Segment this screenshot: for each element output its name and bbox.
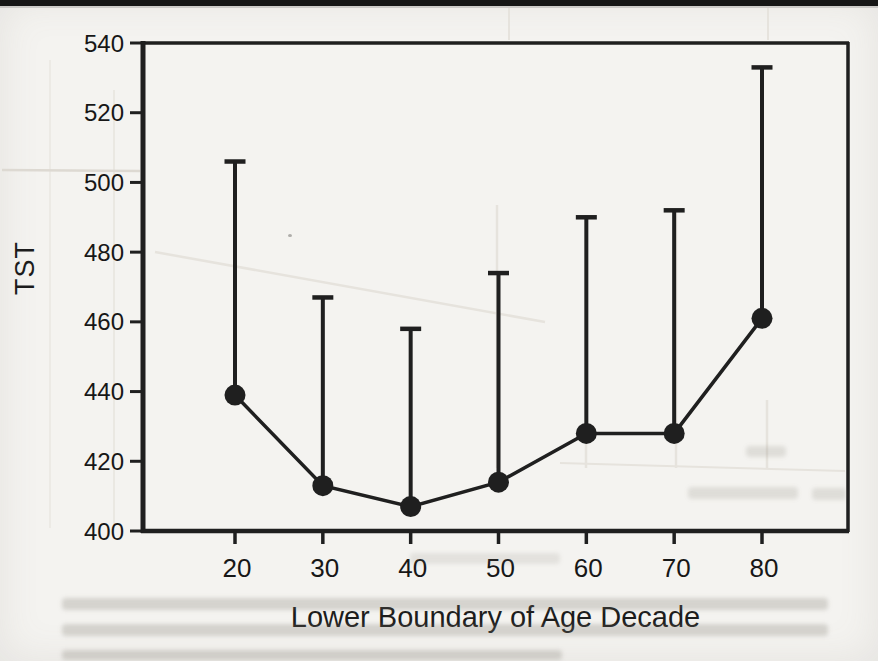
ghost-text-line	[62, 650, 562, 660]
y-tick-label: 540	[84, 30, 124, 57]
data-point-marker	[488, 472, 509, 493]
ghost-curve	[560, 463, 845, 471]
y-tick-label: 460	[84, 308, 124, 335]
ghost-text-fragment	[746, 446, 786, 457]
data-point-marker	[664, 423, 685, 444]
x-tick-label: 60	[574, 553, 603, 583]
y-tick-label: 520	[84, 99, 124, 126]
ghost-curve	[155, 252, 545, 322]
scan-speck	[288, 234, 292, 237]
y-tick-label: 400	[84, 518, 124, 545]
data-point-marker	[225, 385, 246, 406]
y-tick-label: 440	[84, 378, 124, 405]
ghost-text-fragment	[410, 553, 560, 564]
x-tick-label: 20	[223, 553, 252, 583]
ghost-text-fragment	[688, 487, 798, 499]
ghost-text-line	[62, 598, 828, 610]
scanned-page: 40042044046048050052054020304050607080 T…	[0, 0, 878, 661]
x-tick-label: 30	[310, 553, 339, 583]
ghost-text-line	[62, 624, 828, 636]
data-point-marker	[400, 496, 421, 517]
y-tick-label: 480	[84, 239, 124, 266]
ghost-text-fragment	[812, 488, 846, 500]
x-tick-label: 70	[662, 553, 691, 583]
y-axis-title: TST	[10, 218, 50, 318]
x-tick-label: 80	[750, 553, 779, 583]
y-tick-label: 500	[84, 169, 124, 196]
y-tick-label: 420	[84, 448, 124, 475]
data-point-marker	[752, 308, 773, 329]
data-point-marker	[576, 423, 597, 444]
data-point-marker	[312, 475, 333, 496]
